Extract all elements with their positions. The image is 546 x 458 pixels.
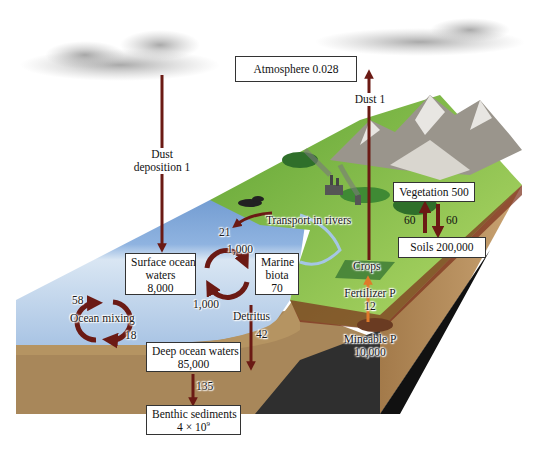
benthic-line1: Benthic sediments: [152, 408, 235, 421]
benthic-value: 4 × 109: [152, 421, 235, 434]
burial-number: 135: [196, 380, 213, 392]
deep-ocean-value: 85,000: [152, 358, 235, 371]
biota-uptake-value: 1,000: [227, 243, 253, 256]
cloud-left: [20, 30, 220, 81]
dust-deposition-line1: Dust: [130, 148, 194, 161]
biota-release-value: 1,000: [193, 298, 219, 311]
soil-to-vegetation-value: 60: [404, 214, 416, 227]
river-transport-value: 21: [219, 226, 231, 239]
detritus-number: 42: [256, 328, 268, 340]
biota-release-number: 1,000: [193, 298, 219, 310]
fertilizer-label: Fertilizer P 12: [340, 287, 400, 313]
crops-text: Crops: [353, 260, 380, 272]
deep-ocean-pool: Deep ocean waters 85,000: [146, 342, 241, 372]
ocean-mixing-label: Ocean mixing: [70, 312, 135, 325]
ocean-mixing-text: Ocean mixing: [70, 312, 135, 324]
river-transport-text: Transport in rivers: [266, 214, 351, 226]
benthic-value-exponent: 9: [207, 420, 211, 428]
dust-deposition-label: Dust deposition 1: [130, 148, 194, 174]
ocean-mixing-down-value: 18: [125, 329, 137, 342]
deep-ocean-line1: Deep ocean waters: [152, 345, 235, 358]
marine-biota-line2: biota: [261, 269, 293, 282]
soils-label: Soils 200,000: [410, 241, 473, 253]
dust-up-label: Dust 1: [350, 93, 390, 106]
biota-uptake-number: 1,000: [227, 243, 253, 255]
dust-up-text: Dust 1: [355, 93, 385, 105]
burial-value: 135: [196, 380, 213, 393]
fertilizer-text: Fertilizer P: [340, 287, 400, 300]
soil-to-vegetation-number: 60: [404, 214, 416, 226]
soils-pool: Soils 200,000: [398, 237, 486, 258]
marine-biota-line1: Marine: [261, 256, 293, 269]
river-transport-number: 21: [219, 226, 231, 238]
cloud-right: [315, 18, 525, 56]
surface-ocean-value: 8,000: [131, 282, 190, 295]
mineable-value: 10,000: [340, 346, 400, 359]
dust-deposition-line2: deposition 1: [130, 161, 194, 174]
atmosphere-label: Atmosphere 0.028: [254, 63, 339, 75]
marine-biota-pool: Marine biota 70: [255, 253, 299, 295]
detritus-text: Detritus: [233, 310, 270, 322]
ocean-mixing-up-value: 58: [72, 294, 84, 307]
fertilizer-number: 12: [340, 300, 400, 313]
vegetation-label: Vegetation 500: [399, 186, 468, 198]
atmosphere-pool: Atmosphere 0.028: [235, 56, 357, 82]
vegetation-to-soil-number: 60: [446, 214, 458, 226]
surface-ocean-line2: waters: [131, 269, 190, 282]
ocean-mixing-up-number: 58: [72, 294, 84, 306]
crops-label: Crops: [353, 260, 380, 273]
benthic-value-base: 4 × 10: [177, 421, 207, 433]
surface-ocean-pool: Surface ocean waters 8,000: [125, 253, 196, 295]
benthic-sediments-pool: Benthic sediments 4 × 109: [146, 405, 241, 435]
vegetation-to-soil-value: 60: [446, 214, 458, 227]
vegetation-pool: Vegetation 500: [393, 182, 475, 202]
detritus-label: Detritus: [233, 310, 270, 323]
ocean-mixing-down-number: 18: [125, 329, 137, 341]
surface-ocean-line1: Surface ocean: [131, 256, 190, 269]
mine-pit: [357, 318, 393, 332]
mineable-line1: Mineable P: [340, 333, 400, 346]
river-transport-label: Transport in rivers: [266, 214, 351, 227]
marine-biota-value: 70: [261, 282, 293, 295]
detritus-value: 42: [256, 328, 268, 341]
mineable-p-pool: Mineable P 10,000: [340, 333, 400, 359]
